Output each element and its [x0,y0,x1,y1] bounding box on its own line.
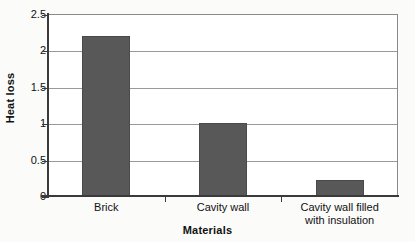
bar-chart-figure: Heat loss 00.511.522.5 BrickCavity wallC… [0,0,415,242]
bar [199,123,247,196]
y-tick-label: 1.5 [18,81,46,92]
x-tick-label-line: Cavity wall [197,201,250,213]
x-axis-title: Materials [0,224,415,236]
x-tick-label: Cavity wall [165,201,282,214]
y-axis-tick-labels: 00.511.522.5 [18,14,46,196]
y-axis-title: Heat loss [0,0,20,196]
bar [82,36,130,196]
y-tick-label: 2.5 [18,9,46,20]
x-tick-label-line: Cavity wall filled [301,201,379,213]
x-tick-label: Cavity wall filledwith insulation [281,201,398,226]
y-tick-label: 0.5 [18,154,46,165]
y-tick-label: 2 [18,45,46,56]
y-tick-label: 1 [18,118,46,129]
x-tick-label-line: Brick [94,201,118,213]
x-axis-line [41,195,399,197]
y-tick-mark [42,197,49,198]
y-axis-title-label: Heat loss [4,73,16,124]
bar [316,180,364,196]
plot-area [48,14,398,196]
x-tick-label: Brick [48,201,165,214]
y-axis-line [47,13,49,197]
